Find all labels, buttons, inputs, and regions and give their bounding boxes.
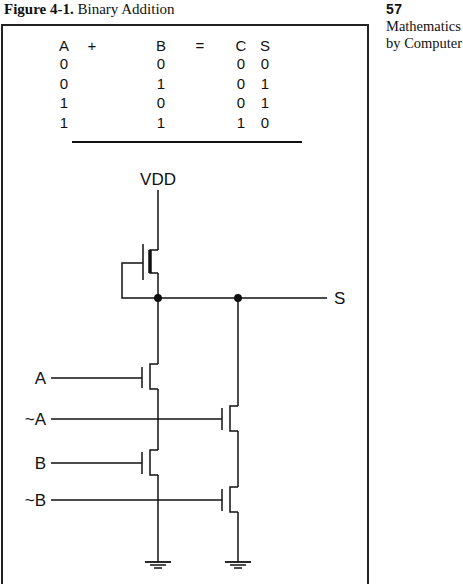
header-s: S: [260, 37, 270, 54]
truth-table: A + B = C S 0 0 0 0 0 1 0 1 1 0 0 1 1 1: [59, 37, 302, 142]
cell-b: 1: [157, 75, 165, 92]
cell-s: 0: [261, 114, 269, 131]
table-row: 1 0 0 1: [60, 94, 269, 111]
nmos-not-a-transistor: [51, 406, 238, 431]
header-b: B: [156, 37, 166, 54]
table-row: 0 1 0 1: [60, 75, 269, 92]
cell-c: 1: [237, 114, 245, 131]
table-row: 0 0 0 0: [60, 55, 269, 72]
pmos-load-transistor: [122, 244, 158, 298]
ground-icon: [145, 559, 171, 568]
output-s-label: S: [334, 289, 345, 308]
table-header: A + B = C S: [59, 37, 270, 54]
cell-a: 0: [60, 55, 68, 72]
input-b-label: B: [35, 454, 46, 473]
input-not-b-label: ~B: [25, 491, 46, 510]
nmos-b-transistor: [51, 450, 158, 475]
input-not-a-label: ~A: [25, 410, 47, 429]
cell-a: 1: [60, 94, 68, 111]
header-a: A: [59, 37, 69, 54]
cell-a: 0: [60, 75, 68, 92]
cell-s: 1: [261, 75, 269, 92]
cell-b: 0: [157, 94, 165, 111]
xor-circuit: VDD S: [25, 170, 346, 568]
nmos-a-transistor: [51, 364, 158, 389]
cell-s: 1: [261, 94, 269, 111]
cell-b: 0: [157, 55, 165, 72]
cell-c: 0: [237, 75, 245, 92]
vdd-label: VDD: [140, 170, 176, 189]
header-c: C: [236, 37, 247, 54]
nmos-not-b-transistor: [51, 487, 238, 512]
table-row: 1 1 1 0: [60, 114, 269, 131]
cell-a: 1: [60, 114, 68, 131]
cell-c: 0: [237, 55, 245, 72]
header-plus: +: [88, 37, 97, 54]
ground-icon: [225, 559, 251, 568]
input-a-label: A: [35, 369, 47, 388]
cell-c: 0: [237, 94, 245, 111]
cell-b: 1: [157, 114, 165, 131]
header-equals: =: [196, 37, 205, 54]
cell-s: 0: [261, 55, 269, 72]
